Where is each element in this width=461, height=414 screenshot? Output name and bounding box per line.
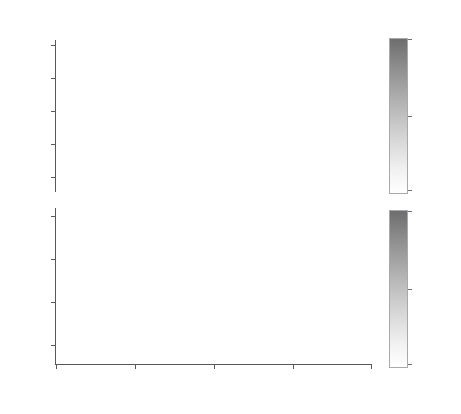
- top-ytick-1.5: [51, 111, 55, 112]
- bottom-xtick-0: [56, 365, 57, 369]
- top-ytick-1.7: [51, 45, 55, 46]
- colorbar-bottom: [389, 210, 459, 368]
- colorbar-tick-high: [408, 39, 412, 40]
- bottom-plot-area: [56, 210, 372, 362]
- top-ytick-1.3: [51, 177, 55, 178]
- bottom-xtick-100: [214, 365, 215, 369]
- bottom-ytick-4: [51, 345, 55, 346]
- top-plot-svg: [56, 42, 372, 190]
- bottom-ytick-4.5: [51, 302, 55, 303]
- panel-ocean-variable-2: [0, 32, 378, 200]
- bottom-ytick-5.5: [51, 216, 55, 217]
- top-ytick-1.4: [51, 144, 55, 145]
- colorbar-tick-low: [408, 190, 412, 191]
- bottom-xtick-200: [371, 365, 372, 369]
- bottom-ytick-5: [51, 259, 55, 260]
- colorbar-top: [389, 38, 459, 194]
- colorbar-title: [389, 267, 408, 277]
- colorbar-tick-high: [408, 211, 412, 212]
- top-ytick-1.6: [51, 78, 55, 79]
- colorbar-tick-low: [408, 364, 412, 365]
- colorbar-gradient: [389, 210, 408, 368]
- colorbar-gradient: [389, 38, 408, 194]
- bottom-xtick-150: [293, 365, 294, 369]
- colorbar-tick-medium: [408, 289, 412, 290]
- bottom-xtick-50: [135, 365, 136, 369]
- bottom-plot-svg: [56, 210, 372, 362]
- top-plot-area: [56, 42, 372, 190]
- panel-ocean-variable-1: [0, 204, 378, 376]
- climate-ensemble-figure: [0, 0, 461, 414]
- colorbar-tick-medium: [408, 116, 412, 117]
- colorbar-title: [389, 94, 408, 104]
